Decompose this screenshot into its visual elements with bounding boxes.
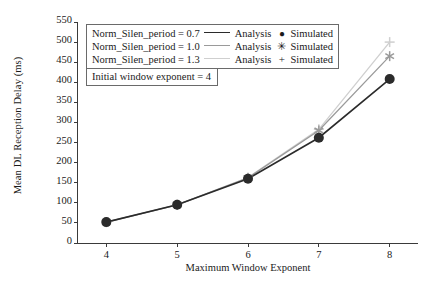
legend-item: Norm_Silen_period = 1.3 Analysis + Simul… bbox=[92, 53, 333, 66]
legend-line-swatch bbox=[204, 45, 230, 46]
legend-line-swatch bbox=[204, 32, 230, 33]
y-tick-label: 250 bbox=[56, 135, 72, 146]
data-point-circle bbox=[172, 200, 182, 210]
data-point-circle bbox=[101, 217, 111, 227]
legend-analysis-label: Analysis bbox=[235, 53, 272, 66]
legend-simulated-label: Simulated bbox=[290, 40, 333, 53]
circle-marker-icon: ● bbox=[276, 28, 287, 39]
legend-item: Norm_Silen_period = 0.7 Analysis ● Simul… bbox=[92, 27, 333, 40]
y-tick-label: 100 bbox=[56, 195, 72, 206]
y-tick-label: 450 bbox=[56, 54, 72, 65]
y-tick-label: 150 bbox=[56, 175, 72, 186]
y-axis-title: Mean DL Reception Delay (ms) bbox=[8, 0, 28, 250]
x-tick-mark bbox=[248, 243, 249, 247]
legend-series-label: Norm_Silen_period = 1.0 bbox=[92, 40, 200, 53]
legend-analysis-label: Analysis bbox=[235, 40, 272, 53]
x-tick-label: 4 bbox=[96, 249, 116, 260]
y-tick-label: 350 bbox=[56, 94, 72, 105]
x-tick-mark bbox=[318, 243, 319, 247]
legend: Norm_Silen_period = 0.7 Analysis ● Simul… bbox=[86, 24, 339, 69]
x-tick-label: 7 bbox=[309, 249, 329, 260]
y-tick-label: 50 bbox=[62, 215, 73, 226]
x-axis-title: Maximum Window Exponent bbox=[78, 262, 418, 273]
legend-series-label: Norm_Silen_period = 1.3 bbox=[92, 53, 200, 66]
x-tick-mark bbox=[106, 243, 107, 247]
y-axis-title-text: Mean DL Reception Delay (ms) bbox=[13, 56, 24, 194]
asterisk-marker-icon: ✳ bbox=[276, 41, 287, 52]
y-tick-label: 550 bbox=[56, 14, 72, 25]
legend-series-label: Norm_Silen_period = 0.7 bbox=[92, 27, 200, 40]
y-tick-label: 500 bbox=[56, 34, 72, 45]
legend-item: Norm_Silen_period = 1.0 Analysis ✳ Simul… bbox=[92, 40, 333, 53]
legend-simulated-label: Simulated bbox=[290, 53, 333, 66]
legend-line-swatch bbox=[204, 58, 230, 59]
x-tick-label: 6 bbox=[238, 249, 258, 260]
data-point-circle bbox=[243, 174, 253, 184]
y-tick-label: 400 bbox=[56, 74, 72, 85]
x-tick-mark bbox=[177, 243, 178, 247]
y-tick-label: 300 bbox=[56, 114, 72, 125]
x-tick-label: 5 bbox=[167, 249, 187, 260]
data-point-circle bbox=[314, 133, 324, 143]
y-tick-label: 0 bbox=[67, 235, 72, 246]
plus-marker-icon: + bbox=[276, 54, 287, 65]
chart-container: Mean DL Reception Delay (ms) 05010015020… bbox=[0, 0, 435, 286]
x-tick-mark bbox=[389, 243, 390, 247]
x-tick-label: 8 bbox=[380, 249, 400, 260]
y-tick-label: 200 bbox=[56, 155, 72, 166]
legend-simulated-label: Simulated bbox=[290, 27, 333, 40]
legend-analysis-label: Analysis bbox=[235, 27, 272, 40]
annotation-box: Initial window exponent = 4 bbox=[86, 69, 218, 86]
data-point-circle bbox=[385, 74, 395, 84]
